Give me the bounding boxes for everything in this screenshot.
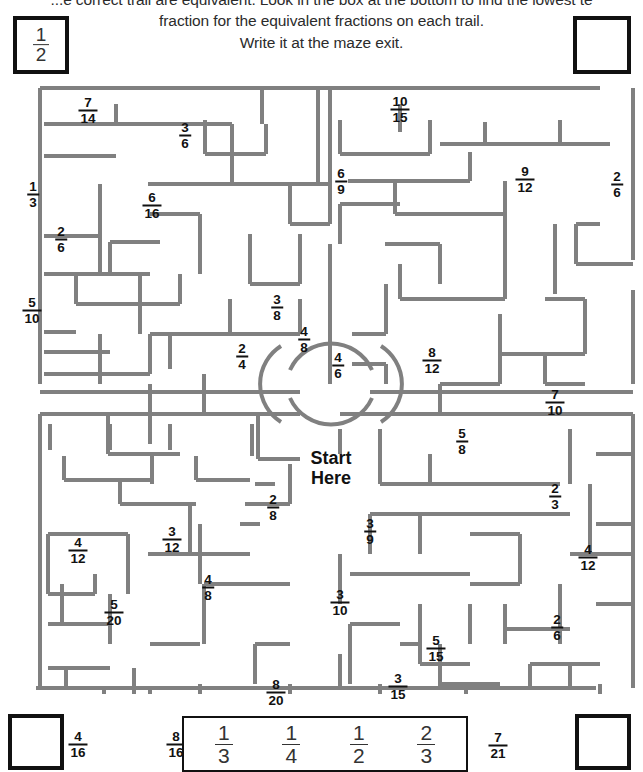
maze-fraction-label: 416 bbox=[68, 730, 87, 759]
maze-fraction-denominator: 10 bbox=[22, 309, 41, 325]
maze-fraction-label: 23 bbox=[549, 482, 561, 511]
maze-fraction-label: 26 bbox=[611, 170, 623, 199]
answer-option-numerator: 1 bbox=[350, 722, 368, 743]
answer-box-top-right[interactable] bbox=[573, 16, 631, 74]
maze-fraction-denominator: 8 bbox=[267, 506, 279, 522]
maze-fraction-label: 48 bbox=[298, 325, 310, 354]
maze-fraction-label: 46 bbox=[332, 351, 344, 380]
answer-option-denominator: 3 bbox=[215, 744, 233, 766]
maze-fraction-denominator: 12 bbox=[68, 549, 87, 565]
maze-fraction-numerator: 4 bbox=[202, 573, 214, 587]
maze-fraction-denominator: 12 bbox=[162, 538, 181, 554]
maze-fraction-denominator: 15 bbox=[390, 108, 409, 124]
maze-fraction-numerator: 9 bbox=[515, 165, 534, 179]
maze-fraction-label: 412 bbox=[68, 536, 87, 565]
maze-fraction-denominator: 10 bbox=[330, 601, 349, 617]
maze-fraction-denominator: 14 bbox=[78, 109, 97, 125]
maze-fraction-numerator: 7 bbox=[488, 731, 507, 745]
maze-fraction-label: 26 bbox=[551, 613, 563, 642]
maze-fraction-label: 515 bbox=[426, 634, 445, 663]
answer-bank: 13141223 bbox=[182, 716, 468, 772]
answer-box-bottom-left[interactable] bbox=[8, 714, 64, 770]
answer-option-denominator: 4 bbox=[282, 744, 300, 766]
maze-fraction-numerator: 5 bbox=[22, 296, 41, 310]
maze-fraction-label: 616 bbox=[142, 191, 161, 220]
maze-fraction-numerator: 3 bbox=[271, 293, 283, 307]
answer-option-numerator: 1 bbox=[282, 722, 300, 743]
maze-fraction-numerator: 2 bbox=[267, 493, 279, 507]
maze-fraction-label: 26 bbox=[55, 225, 67, 254]
maze-fraction-label: 510 bbox=[22, 296, 41, 325]
answer-option-denominator: 3 bbox=[417, 744, 435, 766]
start-here-label: Start Here bbox=[310, 448, 351, 488]
maze-fraction-denominator: 6 bbox=[611, 183, 623, 199]
maze-fraction-denominator: 12 bbox=[578, 556, 597, 572]
maze-fraction-numerator: 3 bbox=[179, 121, 191, 135]
maze-fraction-numerator: 3 bbox=[330, 588, 349, 602]
maze-fraction-numerator: 7 bbox=[545, 388, 564, 402]
maze-fraction-numerator: 6 bbox=[335, 167, 347, 181]
answer-box-bottom-right[interactable] bbox=[575, 714, 631, 770]
maze-fraction-label: 315 bbox=[388, 672, 407, 701]
maze-fraction-numerator: 1 bbox=[27, 180, 39, 194]
answer-bank-option[interactable]: 13 bbox=[215, 722, 233, 766]
maze-fraction-label: 24 bbox=[236, 342, 248, 371]
maze-fraction-label: 721 bbox=[488, 731, 507, 760]
maze-fraction-denominator: 16 bbox=[68, 743, 87, 759]
maze-fraction-denominator: 9 bbox=[364, 530, 376, 546]
maze-fraction-denominator: 9 bbox=[335, 180, 347, 196]
answer-bank-option[interactable]: 23 bbox=[417, 722, 435, 766]
maze-fraction-numerator: 4 bbox=[298, 325, 310, 339]
maze-fraction-label: 13 bbox=[27, 180, 39, 209]
maze-fraction-denominator: 15 bbox=[426, 647, 445, 663]
maze-fraction-numerator: 8 bbox=[422, 346, 441, 360]
maze-fraction-label: 714 bbox=[78, 96, 97, 125]
answer-option-denominator: 2 bbox=[350, 744, 368, 766]
maze-fraction-label: 48 bbox=[202, 573, 214, 602]
answer-option-numerator: 2 bbox=[417, 722, 435, 743]
maze-fraction-denominator: 3 bbox=[549, 495, 561, 511]
maze-fraction-label: 312 bbox=[162, 525, 181, 554]
key-fraction: 1 2 bbox=[17, 25, 65, 65]
key-fraction-numerator: 1 bbox=[33, 25, 50, 44]
header-instructions: ...e correct trail are equivalent. Look … bbox=[0, 0, 643, 84]
maze-fraction-denominator: 20 bbox=[104, 611, 123, 627]
start-here-line-2: Here bbox=[310, 468, 351, 488]
maze-fraction-numerator: 2 bbox=[55, 225, 67, 239]
maze-fraction-numerator: 3 bbox=[388, 672, 407, 686]
maze-fraction-denominator: 4 bbox=[236, 355, 248, 371]
maze-fraction-denominator: 12 bbox=[515, 178, 534, 194]
maze-fraction-numerator: 5 bbox=[104, 598, 123, 612]
maze-fraction-numerator: 6 bbox=[142, 191, 161, 205]
instruction-line-2: fraction for the equivalent fractions on… bbox=[0, 12, 643, 30]
maze-fraction-denominator: 6 bbox=[179, 134, 191, 150]
maze-fraction-label: 39 bbox=[364, 517, 376, 546]
maze-fraction-denominator: 10 bbox=[545, 401, 564, 417]
maze-fraction-denominator: 20 bbox=[266, 691, 285, 707]
maze-fraction-label: 812 bbox=[422, 346, 441, 375]
key-fraction-box: 1 2 bbox=[13, 16, 69, 74]
answer-bank-option[interactable]: 14 bbox=[282, 722, 300, 766]
fraction-maze: Start Here 71436136162648510382410156991… bbox=[0, 84, 643, 694]
maze-fraction-numerator: 4 bbox=[68, 730, 87, 744]
maze-fraction-denominator: 15 bbox=[388, 685, 407, 701]
maze-fraction-numerator: 5 bbox=[426, 634, 445, 648]
maze-fraction-numerator: 3 bbox=[162, 525, 181, 539]
maze-fraction-numerator: 4 bbox=[68, 536, 87, 550]
maze-fraction-numerator: 2 bbox=[236, 342, 248, 356]
maze-fraction-denominator: 6 bbox=[551, 626, 563, 642]
maze-fraction-denominator: 16 bbox=[142, 204, 161, 220]
maze-fraction-label: 912 bbox=[515, 165, 534, 194]
maze-fraction-numerator: 3 bbox=[364, 517, 376, 531]
answer-bank-option[interactable]: 12 bbox=[350, 722, 368, 766]
maze-fraction-denominator: 3 bbox=[27, 193, 39, 209]
maze-fraction-label: 412 bbox=[578, 543, 597, 572]
maze-fraction-label: 36 bbox=[179, 121, 191, 150]
maze-fraction-label: 820 bbox=[266, 678, 285, 707]
key-fraction-denominator: 2 bbox=[33, 45, 50, 65]
maze-fraction-denominator: 8 bbox=[271, 306, 283, 322]
maze-fraction-label: 1015 bbox=[390, 95, 409, 124]
start-here-line-1: Start bbox=[310, 448, 351, 468]
maze-fraction-label: 310 bbox=[330, 588, 349, 617]
maze-fraction-numerator: 4 bbox=[332, 351, 344, 365]
